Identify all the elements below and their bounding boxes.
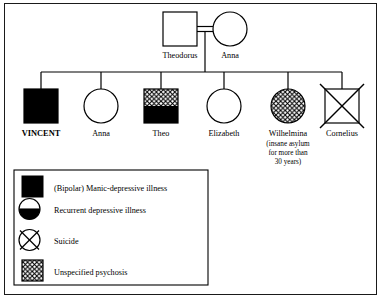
label-vincent: VINCENT xyxy=(22,129,61,138)
legend-icon-solid-square xyxy=(22,176,43,197)
symbol-anna-senior-circle[interactable] xyxy=(213,12,247,46)
legend-label-unspecified-psychosis: Unspecified psychosis xyxy=(54,268,127,277)
legend-label-suicide: Suicide xyxy=(54,237,79,246)
symbol-theo-square-half[interactable] xyxy=(144,89,178,123)
label-theodorus: Theodorus xyxy=(162,51,197,60)
label-wilhelmina: Wilhelmina xyxy=(269,129,308,138)
label-theo: Theo xyxy=(153,129,170,138)
legend-icon-crosshatch-square xyxy=(22,260,43,281)
legend-icon-circle-with-x xyxy=(19,230,40,251)
pedigree-chart: Theodorus Anna VINCENT Anna xyxy=(0,0,382,305)
label-anna-senior: Anna xyxy=(221,51,239,60)
note-wilhelmina-line1: (insane asylum xyxy=(266,140,310,148)
legend-group: (Bipolar) Manic-depressive illness Recur… xyxy=(14,170,208,285)
marriage-line-theodorus-anna xyxy=(197,27,213,32)
generation-2-group: VINCENT Anna Theo Elizabeth Wilhelmina (… xyxy=(22,84,364,166)
label-elizabeth: Elizabeth xyxy=(209,129,240,138)
label-anna: Anna xyxy=(92,129,110,138)
generation-1-group: Theodorus Anna xyxy=(162,12,247,72)
symbol-elizabeth-circle[interactable] xyxy=(207,89,241,123)
note-wilhelmina-line3: 30 years) xyxy=(275,158,302,166)
note-wilhelmina-line2: for more than xyxy=(268,149,308,157)
legend-label-bipolar: (Bipolar) Manic-depressive illness xyxy=(54,184,167,193)
symbol-wilhelmina-circle-hatched[interactable] xyxy=(269,87,309,127)
label-cornelius: Cornelius xyxy=(326,129,358,138)
symbol-theodorus-square[interactable] xyxy=(163,12,197,46)
symbol-vincent-square-filled[interactable] xyxy=(24,89,58,123)
symbol-anna-circle[interactable] xyxy=(84,89,118,123)
symbol-cornelius-square-crossed[interactable] xyxy=(320,84,364,128)
legend-label-recurrent-depressive: Recurrent depressive illness xyxy=(54,206,146,215)
sibship-connector-group xyxy=(41,72,342,89)
